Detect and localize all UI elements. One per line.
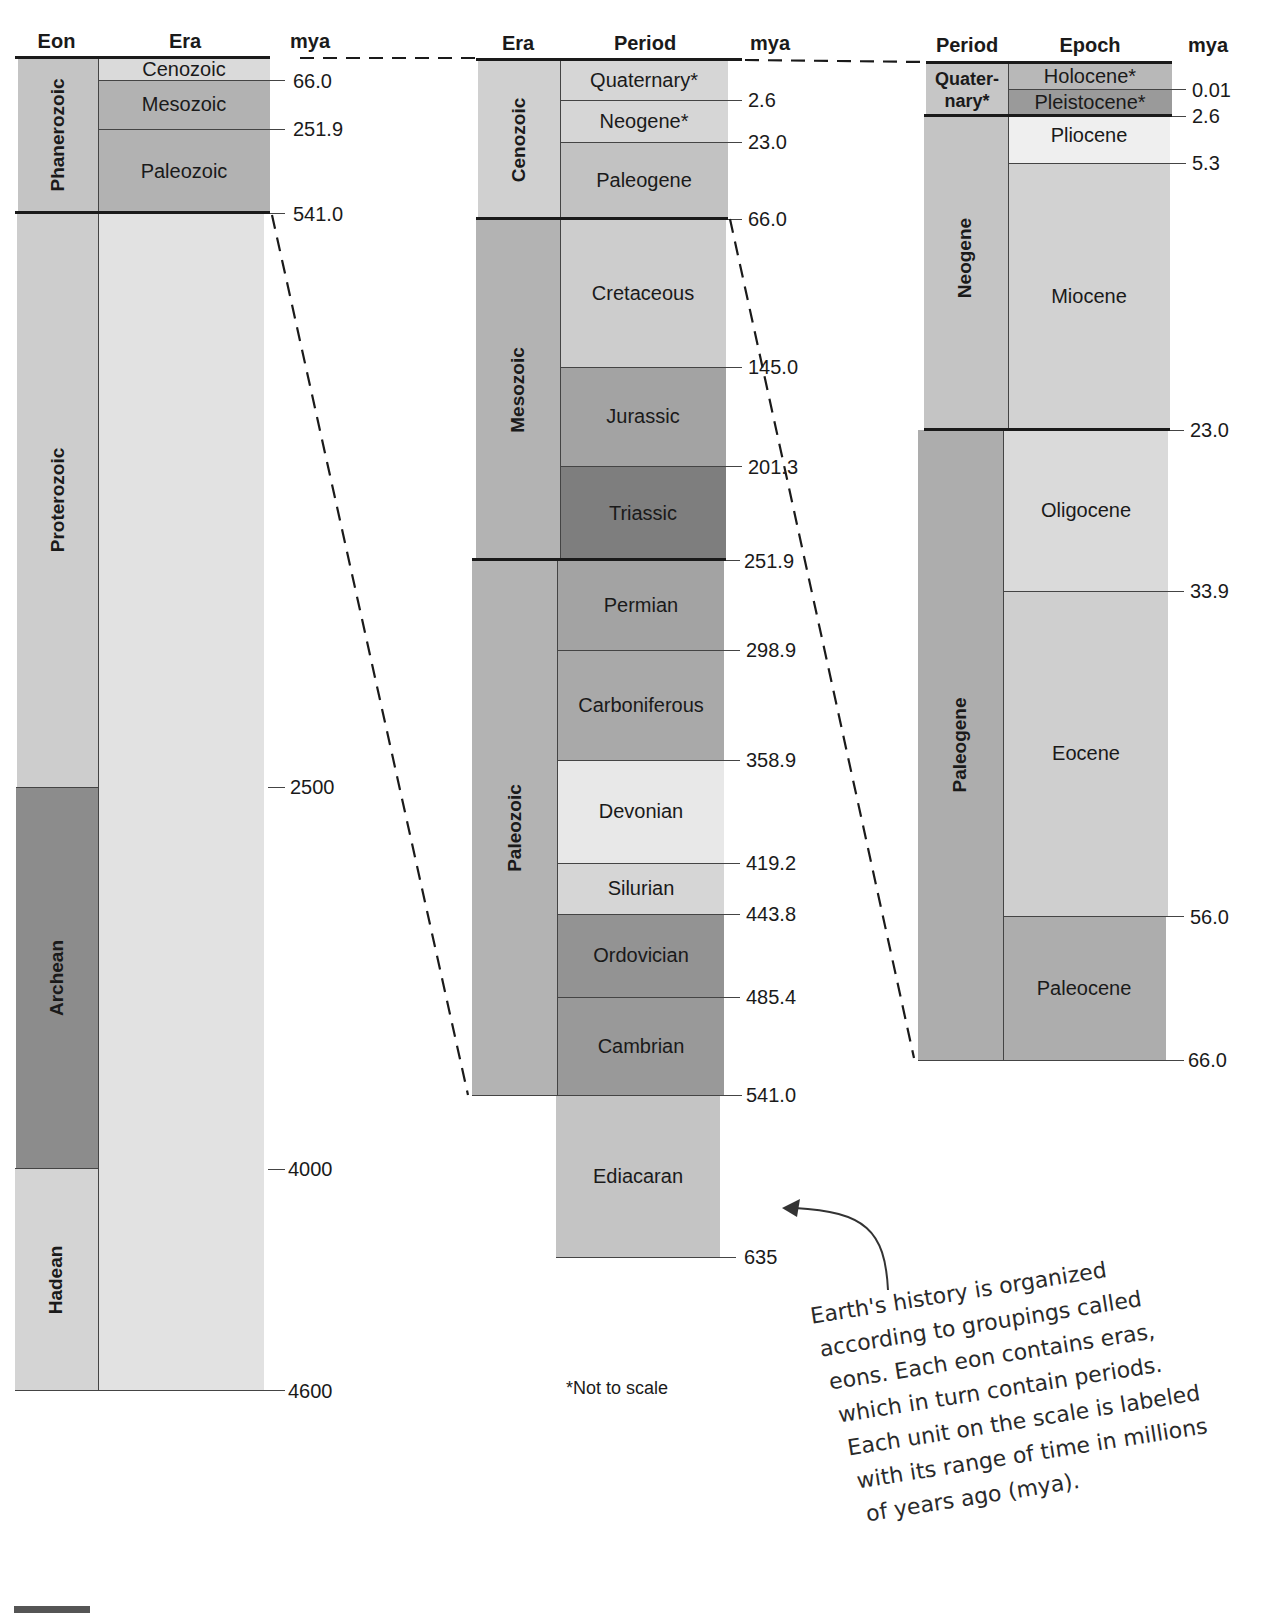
mya-value: 298.9	[746, 639, 796, 662]
mya-value: 5.3	[1192, 152, 1220, 175]
eon-label: Hadean	[45, 1246, 67, 1315]
era-paleozoic: Paleozoic	[98, 129, 270, 213]
arrow-head-icon	[782, 1199, 800, 1217]
tick	[98, 80, 285, 81]
mya-value: 66.0	[293, 70, 332, 93]
mya-value: 2500	[290, 776, 335, 799]
paleozoic-boundary	[472, 1095, 742, 1096]
tick	[556, 1257, 736, 1258]
header-era: Era	[476, 32, 560, 55]
eon-label: Archean	[46, 940, 68, 1016]
mya-value: 0.01	[1192, 79, 1231, 102]
top-rule	[15, 56, 270, 59]
phanerozoic-boundary	[15, 211, 270, 214]
epoch-miocene: Miocene	[1008, 163, 1170, 430]
period-label: Paleogene	[949, 697, 971, 792]
period-devonian: Devonian	[558, 760, 724, 863]
tick	[560, 100, 742, 101]
tick	[728, 219, 742, 220]
mya-value: 541.0	[746, 1084, 796, 1107]
dashed-connector-phanerozoic	[272, 215, 468, 1095]
mya-value: 56.0	[1190, 906, 1229, 929]
era-label: Cenozoic	[508, 98, 530, 182]
neogene-boundary	[924, 428, 1170, 431]
header-mya: mya	[750, 32, 790, 55]
dashed-connector-top-2	[745, 60, 926, 62]
period-silurian: Silurian	[558, 863, 724, 914]
epoch-oligocene: Oligocene	[1004, 430, 1168, 591]
period-paleogene: Paleogene	[560, 142, 728, 219]
annotation-arrow	[795, 1208, 888, 1290]
divider	[98, 58, 99, 1390]
period-permian: Permian	[558, 560, 724, 650]
period-label-line1: Quater-	[935, 68, 999, 90]
mya-value: 443.8	[746, 903, 796, 926]
mya-value: 358.9	[746, 749, 796, 772]
epoch-eocene: Eocene	[1004, 591, 1168, 916]
header-era: Era	[100, 30, 270, 53]
tick	[558, 997, 740, 998]
eon-label: Proterozoic	[47, 448, 69, 553]
mya-value: 23.0	[1190, 419, 1229, 442]
mya-value: 251.9	[744, 550, 794, 573]
tick	[268, 787, 285, 788]
period-quaternary: Quaternary*	[560, 60, 728, 100]
tick	[1008, 163, 1186, 164]
tick	[558, 760, 740, 761]
mya-value: 66.0	[748, 208, 787, 231]
era-precambrian-blank	[98, 213, 264, 1390]
epoch-holocene: Holocene*	[1008, 63, 1172, 89]
mya-value: 2.6	[748, 89, 776, 112]
period-cretaceous: Cretaceous	[560, 219, 726, 367]
eon-label: Phanerozoic	[47, 79, 69, 192]
period-ordovician: Ordovician	[558, 914, 724, 997]
mya-value: 419.2	[746, 852, 796, 875]
tick	[98, 129, 285, 130]
cenozoic-boundary	[476, 217, 728, 220]
mya-value: 485.4	[746, 986, 796, 1009]
mya-value: 33.9	[1190, 580, 1229, 603]
tick	[268, 1169, 285, 1170]
period-label: Neogene	[954, 218, 976, 298]
tick	[270, 213, 285, 214]
header-epoch: Epoch	[1008, 34, 1172, 57]
mya-value: 4600	[288, 1380, 333, 1403]
quaternary-boundary	[924, 114, 1172, 117]
period-label-line2: nary*	[944, 90, 989, 112]
epoch-pleistocene: Pleistocene*	[1008, 89, 1172, 116]
header-period: Period	[560, 32, 730, 55]
mya-value: 201.3	[748, 456, 798, 479]
mya-value: 66.0	[1188, 1049, 1227, 1072]
tick	[1008, 89, 1186, 90]
divider	[560, 60, 561, 560]
header-eon: Eon	[15, 30, 98, 53]
period-jurassic: Jurassic	[560, 367, 726, 466]
header-mya: mya	[290, 30, 330, 53]
era-cenozoic: Cenozoic	[98, 58, 270, 80]
tick	[558, 863, 740, 864]
paleogene-boundary	[918, 1060, 1184, 1061]
period-ediacaran: Ediacaran	[556, 1095, 720, 1257]
tick	[560, 367, 742, 368]
footnote-not-to-scale: *Not to scale	[566, 1378, 668, 1399]
tick	[1172, 116, 1186, 117]
era-label: Paleozoic	[504, 784, 526, 872]
header-period: Period	[926, 34, 1008, 57]
top-rule	[926, 61, 1172, 64]
divider	[557, 560, 558, 1095]
tick	[1004, 916, 1184, 917]
divider	[15, 1168, 98, 1169]
mya-value: 251.9	[293, 118, 343, 141]
bottom-rule	[15, 1390, 285, 1391]
period-neogene: Neogene*	[560, 100, 728, 142]
divider	[16, 787, 98, 788]
period-cambrian: Cambrian	[558, 997, 724, 1095]
top-rule	[476, 58, 742, 61]
mya-value: 4000	[288, 1158, 333, 1181]
mya-value: 23.0	[748, 131, 787, 154]
tick	[558, 650, 740, 651]
tick	[726, 560, 740, 561]
period-triassic: Triassic	[560, 466, 726, 560]
divider	[1008, 63, 1009, 430]
tick	[1170, 430, 1184, 431]
